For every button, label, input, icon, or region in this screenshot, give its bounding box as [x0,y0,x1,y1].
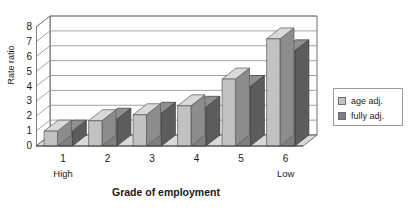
x-axis-title: Grade of employment [112,186,292,198]
plot-canvas [36,12,319,152]
x-tick-label-3: 3 [142,153,162,164]
legend-label-age-adj: age adj. [351,96,383,106]
plot-area [36,12,319,152]
y-tick-label-0: 0 [18,141,32,151]
y-tick-label-8: 8 [18,22,32,32]
legend: age adj. fully adj. [333,88,403,126]
legend-item-fully-adj[interactable]: fully adj. [338,108,399,123]
bar-chart: Rate ratio 012345678 1High23456Low Grade… [0,0,409,212]
x-axis-endcap-high: High [43,168,83,179]
y-tick-label-3: 3 [18,96,32,106]
x-axis-endcap-low: Low [266,168,306,179]
y-tick-label-2: 2 [18,111,32,121]
legend-swatch-icon-age-adj [338,97,346,105]
y-axis-title: Rate ratio [6,30,16,100]
x-tick-label-6: 6 [276,153,296,164]
x-tick-label-5: 5 [231,153,251,164]
x-tick-label-2: 2 [98,153,118,164]
x-tick-label-4: 4 [187,153,207,164]
y-tick-label-5: 5 [18,67,32,77]
y-tick-label-1: 1 [18,126,32,136]
y-tick-label-7: 7 [18,37,32,47]
legend-label-fully-adj: fully adj. [351,111,384,121]
y-tick-label-4: 4 [18,82,32,92]
y-tick-label-6: 6 [18,52,32,62]
x-tick-label-1: 1 [53,153,73,164]
legend-item-age-adj[interactable]: age adj. [338,93,399,108]
legend-swatch-icon-fully-adj [338,112,346,120]
